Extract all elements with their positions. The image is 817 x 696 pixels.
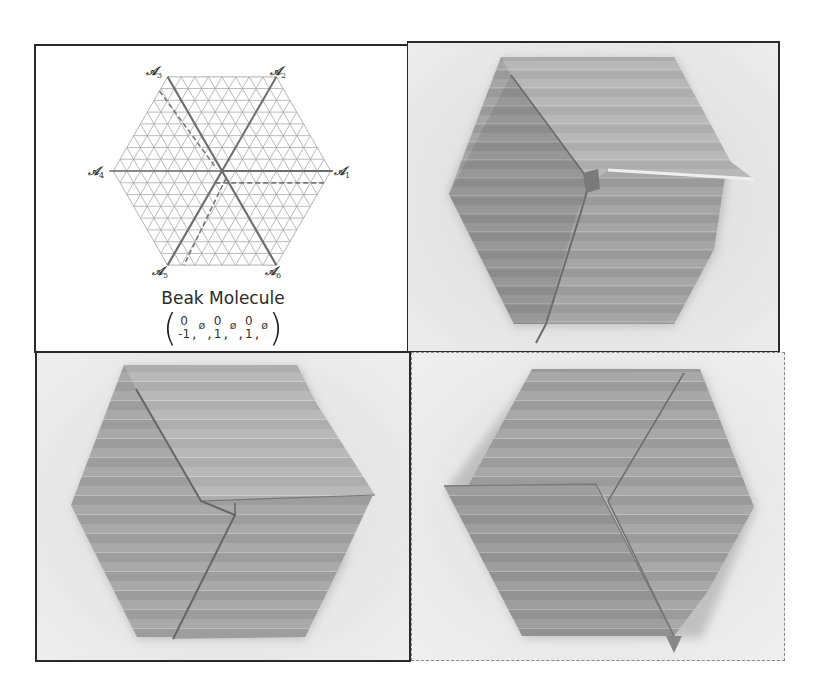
axis-label-a3: 𝒜3 [146, 64, 162, 80]
comma: , [239, 325, 243, 341]
vector-entry-4: ø [230, 319, 237, 332]
axis-label-a2: 𝒜2 [270, 64, 286, 80]
vector-entry-5: 01 [245, 315, 253, 341]
comma: , [192, 325, 196, 341]
folded-hexagon-photo-1 [408, 43, 780, 353]
molecule-vector: ( 0-1 , ø , 01 , ø , 01 , ø ) [36, 310, 408, 353]
comma: , [223, 325, 227, 341]
vector-entry-1: 0-1 [178, 315, 190, 341]
axis-label-a4: 𝒜4 [88, 164, 104, 180]
close-paren: ) [269, 309, 283, 347]
diagram-panel: 𝒜3 𝒜2 𝒜4 𝒜1 𝒜5 𝒜6 Beak Molecule ( 0-1 , … [34, 44, 408, 353]
axis-label-a6: 𝒜6 [265, 264, 281, 280]
vector-entry-6: ø [261, 319, 268, 332]
vector-entry-2: ø [199, 319, 206, 332]
comma: , [207, 325, 211, 341]
photo-panel-bottom-right [411, 352, 785, 661]
photo-panel-bottom-left [35, 351, 411, 662]
open-paren: ( [163, 309, 177, 347]
vector-entry-3: 01 [214, 315, 222, 341]
axis-label-a5: 𝒜5 [152, 264, 168, 280]
comma: , [255, 325, 259, 341]
folded-hexagon-photo-3 [412, 353, 784, 660]
molecule-title: Beak Molecule [36, 288, 408, 308]
axis-label-a1: 𝒜1 [334, 164, 350, 180]
photo-panel-top-right [407, 41, 780, 353]
folded-hexagon-photo-2 [37, 353, 411, 662]
